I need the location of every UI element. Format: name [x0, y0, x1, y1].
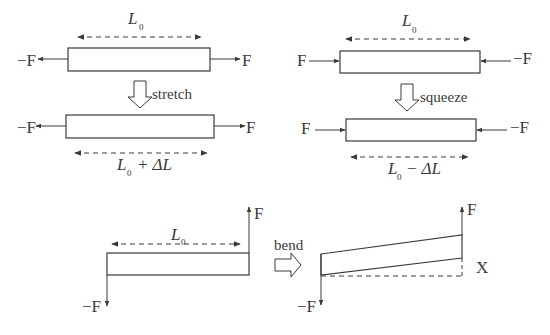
squeeze-left-force-label: F	[297, 51, 306, 70]
stretch-bar-stretched	[66, 115, 214, 138]
bend-right-arrow-icon	[275, 253, 301, 277]
squeeze-top-length-sub: 0	[412, 25, 417, 35]
stretch-top-length-sub: 0	[139, 22, 144, 32]
squeeze-right-force-label: −F	[513, 49, 532, 68]
squeeze-bar-original	[340, 51, 480, 73]
stretch-right-force-label: F	[242, 51, 251, 70]
bend-deflection-label: X	[476, 258, 488, 277]
bend-length-label: L	[170, 225, 180, 244]
squeeze-bottom-length-label: L	[387, 159, 397, 178]
stretch-bar-original	[68, 48, 210, 71]
stretch-bottom-left-force-label: −F	[17, 118, 36, 137]
bend-panel: L 0 F −F bend X F −F	[82, 200, 488, 316]
stretch-panel: L 0 −F F stretch −F F L 0 + ΔL	[17, 9, 255, 178]
stretch-top-length-label: L	[127, 9, 137, 28]
stretch-action-label: stretch	[152, 86, 192, 102]
squeeze-bottom-length-suffix: − ΔL	[406, 159, 441, 178]
squeeze-bottom-right-force-label: −F	[510, 118, 529, 137]
squeeze-bar-compressed	[346, 119, 476, 141]
bend-after-up-force-label: F	[467, 200, 476, 219]
stretch-bottom-length-sub: 0	[127, 168, 132, 178]
bend-bar-original	[107, 253, 249, 275]
stretch-bottom-length-label: L	[116, 155, 126, 174]
squeeze-panel: L 0 F −F squeeze F −F L 0 − ΔL	[297, 11, 532, 182]
bend-bar-deflected	[321, 235, 462, 275]
bend-before-up-force-label: F	[254, 204, 263, 223]
stretch-left-force-label: −F	[17, 51, 36, 70]
squeeze-bottom-left-force-label: F	[301, 119, 310, 138]
deformation-diagram: L 0 −F F stretch −F F L 0 + ΔL L 0 F −F …	[0, 0, 550, 335]
squeeze-bottom-length-sub: 0	[397, 172, 402, 182]
bend-before-down-force-label: −F	[82, 297, 101, 316]
squeeze-down-arrow-icon	[395, 84, 419, 111]
stretch-down-arrow-icon	[128, 81, 152, 108]
stretch-bottom-right-force-label: F	[246, 118, 255, 137]
bend-length-sub: 0	[181, 237, 186, 247]
bend-action-label: bend	[274, 237, 304, 253]
squeeze-action-label: squeeze	[420, 89, 468, 105]
stretch-bottom-length-suffix: + ΔL	[137, 155, 172, 174]
bend-after-down-force-label: −F	[297, 297, 316, 316]
squeeze-top-length-label: L	[401, 11, 411, 30]
